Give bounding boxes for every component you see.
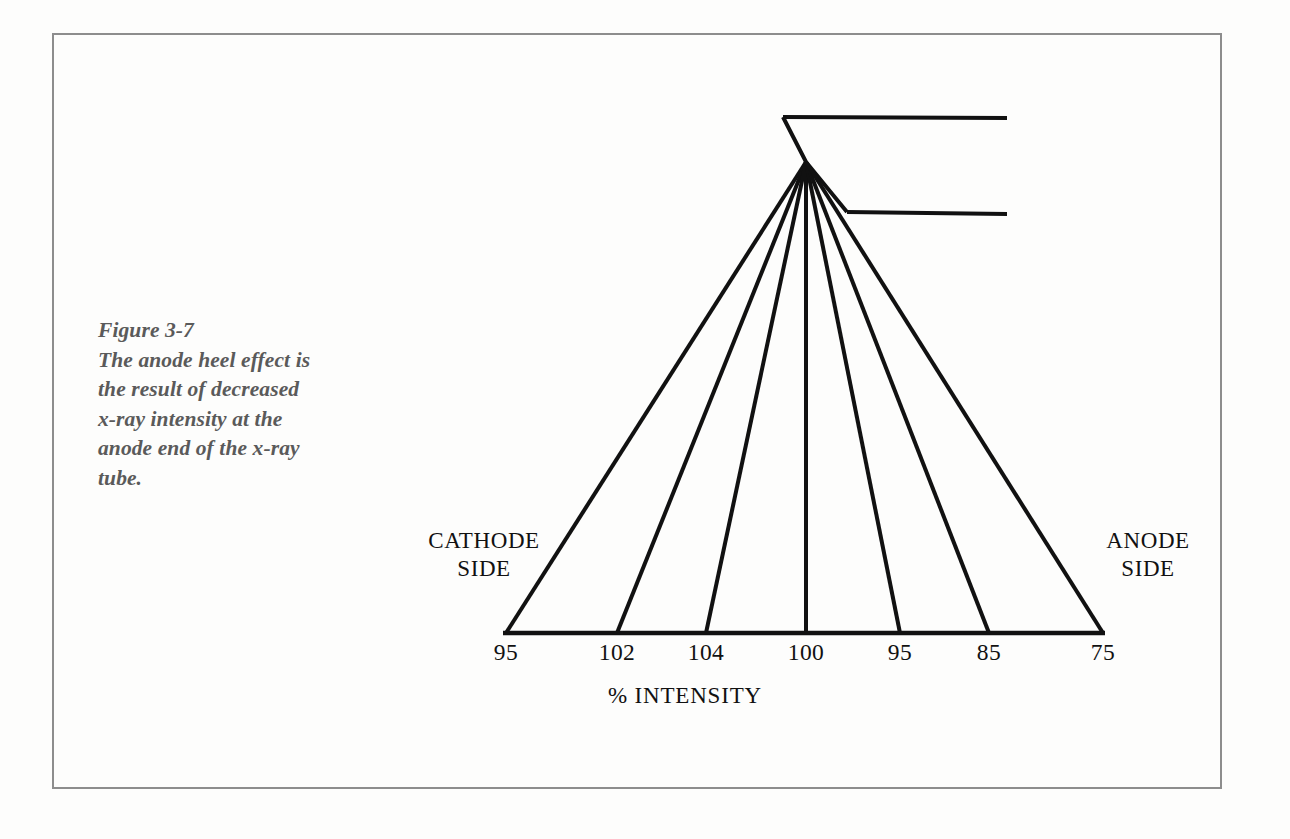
- tick-label-0: 95: [494, 639, 518, 666]
- caption-line-1: Figure 3-7: [98, 316, 358, 346]
- tick-label-5: 85: [977, 639, 1001, 666]
- anode-side-label: ANODE SIDE: [1078, 527, 1218, 583]
- cathode-label-line-2: SIDE: [404, 555, 564, 583]
- caption-line-2: The anode heel effect is: [98, 346, 358, 376]
- caption-line-3: the result of decreased: [98, 375, 358, 405]
- axis-title: % INTENSITY: [0, 683, 1290, 709]
- figure-page: Figure 3-7 The anode heel effect is the …: [0, 0, 1290, 839]
- tick-label-6: 75: [1091, 639, 1115, 666]
- cathode-label-line-1: CATHODE: [404, 527, 564, 555]
- figure-caption: Figure 3-7 The anode heel effect is the …: [98, 316, 358, 493]
- tick-label-4: 95: [888, 639, 912, 666]
- tick-label-3: 100: [788, 639, 824, 666]
- axis-title-text: % INTENSITY: [608, 683, 762, 709]
- tick-label-2: 104: [688, 639, 724, 666]
- intensity-tick-labels: 95102104100958575: [0, 639, 1290, 673]
- caption-line-4: x-ray intensity at the: [98, 405, 358, 435]
- anode-label-line-1: ANODE: [1078, 527, 1218, 555]
- caption-line-5: anode end of the x-ray: [98, 434, 358, 464]
- cathode-side-label: CATHODE SIDE: [404, 527, 564, 583]
- caption-line-6: tube.: [98, 464, 358, 494]
- anode-label-line-2: SIDE: [1078, 555, 1218, 583]
- tick-label-1: 102: [599, 639, 635, 666]
